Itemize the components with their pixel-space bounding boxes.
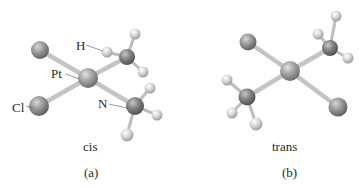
chlorine-label: Cl bbox=[12, 101, 24, 114]
platinum-atom bbox=[280, 61, 300, 81]
panel-label-a: (a) bbox=[84, 166, 98, 179]
chlorine-atom-lower bbox=[29, 96, 49, 116]
trans-isomer-molecule bbox=[222, 11, 354, 131]
chlorine-atom-upper bbox=[31, 41, 49, 59]
nitrogen-label: N bbox=[98, 97, 107, 110]
nitrogen-atom-lower bbox=[239, 89, 256, 106]
nitrogen-atom-upper bbox=[119, 49, 135, 65]
platinum-label: Pt bbox=[51, 67, 62, 80]
hydrogen-atom bbox=[130, 29, 141, 40]
hydrogen-atom bbox=[222, 75, 233, 86]
trans-caption: trans bbox=[272, 140, 297, 153]
cis-isomer-molecule bbox=[26, 29, 163, 142]
nitrogen-atom-upper bbox=[322, 40, 338, 56]
platinum-atom bbox=[78, 68, 98, 88]
panel-label-b: (b) bbox=[282, 166, 297, 179]
hydrogen-atom bbox=[121, 129, 134, 142]
molecule-diagram bbox=[0, 0, 359, 187]
hydrogen-atom bbox=[331, 11, 342, 22]
hydrogen-atom bbox=[250, 118, 263, 131]
hydrogen-atom bbox=[138, 67, 149, 78]
cis-caption: cis bbox=[83, 140, 97, 153]
hydrogen-atom bbox=[313, 29, 324, 40]
hydrogen-atom bbox=[152, 110, 163, 121]
hydrogen-atom bbox=[145, 83, 156, 94]
hydrogen-atom bbox=[343, 53, 354, 64]
hydrogen-atom bbox=[227, 108, 238, 119]
chlorine-atom-lower bbox=[329, 98, 348, 117]
hydrogen-atom bbox=[102, 47, 113, 58]
nitrogen-atom-lower bbox=[126, 97, 144, 115]
hydrogen-label: H bbox=[76, 39, 85, 52]
chlorine-atom-upper bbox=[240, 34, 257, 51]
